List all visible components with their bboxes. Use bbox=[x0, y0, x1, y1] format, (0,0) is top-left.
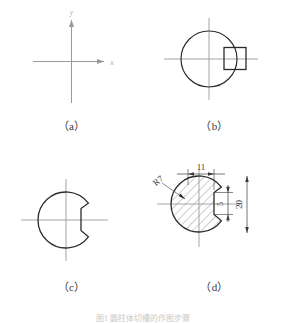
panel-d: 11 R7 5 20 （d） bbox=[143, 161, 286, 322]
panel-a: y x （a） bbox=[0, 0, 143, 161]
dim-11-label: 11 bbox=[197, 162, 206, 172]
panel-a-caption: （a） bbox=[0, 117, 143, 133]
dim-11-arrow-left bbox=[188, 172, 194, 176]
dim-20-arrow-bottom bbox=[245, 227, 249, 233]
panel-a-drawing: y x bbox=[0, 0, 143, 161]
dim-11-arrow-right bbox=[208, 172, 214, 176]
panel-b-caption: （b） bbox=[143, 117, 286, 133]
y-axis-arrowhead bbox=[69, 20, 74, 27]
panel-d-caption: （d） bbox=[143, 278, 286, 294]
dim-r7-label: R7 bbox=[151, 173, 166, 188]
dim-5-label: 5 bbox=[216, 202, 225, 206]
x-axis-label: x bbox=[109, 58, 114, 67]
keyway-construction-square bbox=[224, 48, 246, 70]
panel-b: （b） bbox=[143, 0, 286, 161]
dim-20-arrow-top bbox=[245, 176, 249, 182]
dim-5-arrow-top bbox=[226, 187, 230, 193]
panel-d-drawing: 11 R7 5 20 bbox=[143, 161, 286, 322]
panel-c-drawing bbox=[0, 161, 143, 322]
panel-c: （c） bbox=[0, 161, 143, 322]
panel-c-caption: （c） bbox=[0, 278, 143, 294]
figure-caption: 图1 圆柱体切槽的作图步骤 bbox=[0, 312, 286, 323]
y-axis-label: y bbox=[69, 8, 74, 17]
dim-5-arrow-bottom bbox=[226, 215, 230, 221]
x-axis-arrowhead bbox=[97, 59, 104, 64]
panel-b-drawing bbox=[143, 0, 286, 161]
dim-20-label: 20 bbox=[234, 200, 244, 210]
